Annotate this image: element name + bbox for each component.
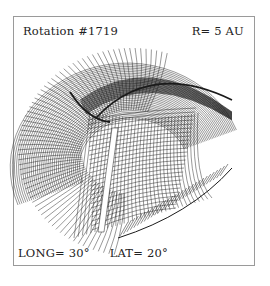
current-sheet-wireframe — [0, 0, 270, 286]
